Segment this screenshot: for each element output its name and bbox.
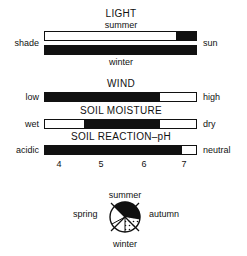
season-autumn-label: autumn: [149, 210, 179, 219]
light-summer-label: summer: [105, 21, 138, 30]
light-summer-bar: [44, 31, 197, 41]
soil-moisture-bar-fill: [84, 120, 160, 128]
light-sun-label: sun: [203, 39, 218, 48]
soil-reaction-title: SOIL REACTION–pH: [71, 132, 171, 142]
soil-moisture-title: SOIL MOISTURE: [80, 106, 162, 116]
light-summer-bar-fill: [176, 32, 196, 40]
soil-reaction-bar: [44, 145, 197, 155]
soil-moisture-wet-label: wet: [25, 120, 39, 129]
wind-low-label: low: [25, 93, 39, 102]
season-dial: [100, 192, 150, 242]
wind-bar-fill: [45, 93, 160, 101]
light-winter-label: winter: [109, 58, 133, 67]
light-shade-label: shade: [14, 39, 39, 48]
wind-title: WIND: [107, 79, 135, 89]
light-winter-bar: [44, 45, 197, 55]
season-spring-label: spring: [73, 210, 98, 219]
soil-moisture-bar: [44, 119, 197, 129]
ph-tick-4: 4: [56, 160, 61, 169]
soil-reaction-bar-fill: [45, 146, 182, 154]
ph-tick-7: 7: [181, 160, 186, 169]
light-title: LIGHT: [106, 9, 137, 19]
light-winter-bar-fill: [45, 46, 196, 54]
soil-reaction-neutral-label: neutral: [203, 146, 231, 155]
wind-high-label: high: [203, 93, 220, 102]
soil-reaction-acidic-label: acidic: [16, 146, 39, 155]
wind-bar: [44, 92, 197, 102]
soil-moisture-dry-label: dry: [203, 120, 216, 129]
ph-tick-5: 5: [98, 160, 103, 169]
ph-tick-6: 6: [141, 160, 146, 169]
